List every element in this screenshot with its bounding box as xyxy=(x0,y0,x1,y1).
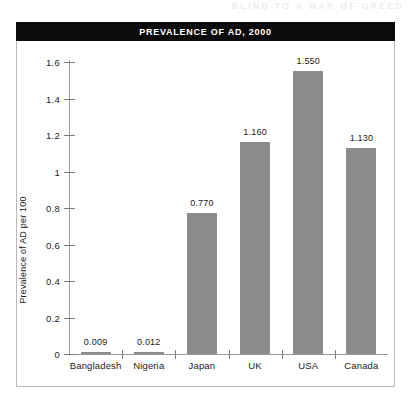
running-header: BLIND TO A WAR OF GREED xyxy=(0,0,418,12)
chart-title: PREVALENCE OF AD, 2000 xyxy=(139,27,272,37)
chart-frame xyxy=(16,41,395,387)
chart-title-banner: PREVALENCE OF AD, 2000 xyxy=(16,22,395,41)
